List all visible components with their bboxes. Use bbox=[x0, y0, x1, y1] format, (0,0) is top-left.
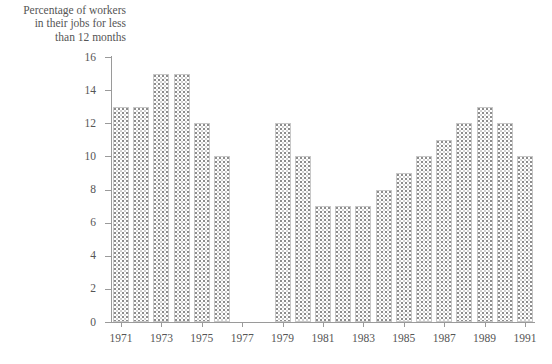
bar-1986 bbox=[416, 156, 432, 322]
y-axis-tick-label: 4 bbox=[90, 248, 96, 262]
x-axis-tick-label: 1975 bbox=[190, 331, 213, 345]
y-axis-tick-label: 16 bbox=[85, 50, 97, 64]
x-axis-tick bbox=[444, 322, 445, 327]
x-axis-tick-label: 1985 bbox=[392, 331, 415, 345]
y-axis-tick-label: 6 bbox=[90, 215, 96, 229]
y-axis-tick: 6 bbox=[105, 223, 111, 224]
bar-1980 bbox=[295, 156, 311, 322]
x-axis-tick bbox=[242, 322, 243, 327]
y-axis-tick-label: 12 bbox=[85, 116, 97, 130]
x-axis-tick-label: 1979 bbox=[271, 331, 294, 345]
y-axis-tick-label: 14 bbox=[85, 83, 97, 97]
x-axis-tick-label: 1991 bbox=[513, 331, 536, 345]
x-axis-tick bbox=[485, 322, 486, 327]
x-axis-tick bbox=[121, 322, 122, 327]
bar-1990 bbox=[497, 123, 513, 322]
y-axis-tick-label: 0 bbox=[90, 315, 96, 329]
bar-1972 bbox=[133, 107, 149, 322]
x-axis-tick bbox=[161, 322, 162, 327]
x-axis-tick-label: 1971 bbox=[110, 331, 133, 345]
plot-area: 0246810121416197119731975197719791981198… bbox=[111, 57, 535, 322]
bar-1983 bbox=[355, 206, 371, 322]
bar-1989 bbox=[477, 107, 493, 322]
y-axis-tick: 14 bbox=[105, 90, 111, 91]
y-axis-tick: 8 bbox=[105, 190, 111, 191]
x-axis-tick-label: 1983 bbox=[352, 331, 375, 345]
x-axis-tick bbox=[404, 322, 405, 327]
x-axis-tick bbox=[323, 322, 324, 327]
y-axis-tick: 4 bbox=[105, 256, 111, 257]
bar-1985 bbox=[396, 173, 412, 322]
bar-1975 bbox=[194, 123, 210, 322]
bar-1981 bbox=[315, 206, 331, 322]
bar-1973 bbox=[153, 74, 169, 322]
y-axis-tick-label: 10 bbox=[85, 149, 97, 163]
x-axis-tick bbox=[525, 322, 526, 327]
x-axis-tick-label: 1987 bbox=[433, 331, 456, 345]
x-axis-tick bbox=[363, 322, 364, 327]
y-axis-tick: 16 bbox=[105, 57, 111, 58]
y-axis-tick-label: 2 bbox=[90, 281, 96, 295]
bar-1991 bbox=[517, 156, 533, 322]
y-axis-tick: 2 bbox=[105, 289, 111, 290]
x-axis-tick-label: 1989 bbox=[473, 331, 496, 345]
bar-1979 bbox=[275, 123, 291, 322]
bar-1982 bbox=[335, 206, 351, 322]
y-axis-tick: 10 bbox=[105, 156, 111, 157]
x-axis-tick-label: 1981 bbox=[312, 331, 335, 345]
bar-1984 bbox=[376, 190, 392, 323]
x-axis-tick bbox=[283, 322, 284, 327]
bar-1987 bbox=[436, 140, 452, 322]
bar-1976 bbox=[214, 156, 230, 322]
bar-1988 bbox=[456, 123, 472, 322]
y-axis-tick: 12 bbox=[105, 123, 111, 124]
bar-1971 bbox=[113, 107, 129, 322]
y-axis-tick-label: 8 bbox=[90, 182, 96, 196]
bar-chart: Percentage of workers in their jobs for … bbox=[0, 0, 552, 364]
x-axis-tick-label: 1977 bbox=[231, 331, 254, 345]
x-axis-tick-label: 1973 bbox=[150, 331, 173, 345]
x-axis-tick bbox=[202, 322, 203, 327]
y-axis-tick: 0 bbox=[105, 322, 111, 323]
bar-1974 bbox=[174, 74, 190, 322]
chart-title: Percentage of workers in their jobs for … bbox=[0, 4, 126, 44]
